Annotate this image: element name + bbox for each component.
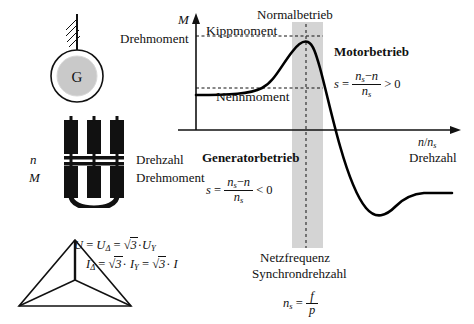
motor-m-symbol: M xyxy=(29,170,40,186)
motor-n-symbol: n xyxy=(30,152,37,168)
current-eq1: = xyxy=(98,257,105,271)
x-axis-label: Drehzahl xyxy=(409,150,457,166)
figure-canvas: G G n M Drehzahl Drehmome xyxy=(0,0,474,324)
y-axis-label: Drehmoment xyxy=(120,31,189,47)
voltage-u-delta-sub: Δ xyxy=(105,243,110,253)
voltage-u: U xyxy=(74,238,83,252)
sync-speed-fraction: f p xyxy=(306,290,318,317)
generator-symbol: G xyxy=(36,10,118,106)
slip-motor-numerator: ns−n xyxy=(352,70,381,85)
voltage-u-y: U xyxy=(142,238,151,252)
current-i-delta-sub: Δ xyxy=(90,262,95,272)
voltage-sqrt: √3 xyxy=(124,237,138,253)
y-axis-symbol: M xyxy=(178,12,189,28)
sync-speed-denominator: p xyxy=(306,304,318,317)
voltage-root-arg: 3 xyxy=(130,237,138,253)
current-eq2: = xyxy=(142,257,149,271)
slip-motor-relation: > 0 xyxy=(384,77,400,91)
slip-generator-formula: s = ns−n ns < 0 xyxy=(206,176,273,206)
motor-windings-symbol xyxy=(56,116,134,208)
generator-symbol-svg: G xyxy=(36,10,118,106)
slip-gen-relation: < 0 xyxy=(256,183,272,197)
motor-windings-svg xyxy=(56,116,134,208)
nennmoment-label: Nennmoment xyxy=(216,89,290,105)
motor-drehzahl-label: Drehzahl xyxy=(136,152,184,168)
slip-motor-denominator: ns xyxy=(352,85,381,99)
current-sqrt1: √3 xyxy=(108,256,122,272)
slip-motor-fraction: ns−n ns xyxy=(352,70,381,100)
x-axis-ns-sub: s xyxy=(433,141,436,150)
motorbetrieb-label: Motorbetrieb xyxy=(334,44,409,60)
x-axis-symbol: n/ns xyxy=(418,135,437,150)
current-dot2: · xyxy=(166,257,170,271)
synchrondrehzahl-label: Synchrondrehzahl xyxy=(252,266,347,282)
slip-gen-num-minus: − xyxy=(237,175,244,189)
current-sqrt2: √3 xyxy=(152,256,166,272)
voltage-eq1: = xyxy=(86,238,93,252)
current-i-y-sub: Y xyxy=(134,262,139,272)
y-axis-arrow xyxy=(192,13,200,24)
x-axis-arrow xyxy=(450,126,461,134)
kippmoment-label: Kippmoment xyxy=(206,23,277,39)
slip-gen-denominator: ns xyxy=(224,191,253,205)
slip-gen-fraction: ns−n ns xyxy=(224,176,253,206)
generator-letter-text: G xyxy=(72,69,83,85)
generatorbetrieb-label: Generatorbetrieb xyxy=(202,150,299,166)
slip-gen-s: s xyxy=(206,183,211,197)
sync-speed-numerator: f xyxy=(306,290,318,304)
normalbetrieb-label: Normalbetrieb xyxy=(257,7,333,23)
voltage-u-y-sub: Y xyxy=(151,243,156,253)
slip-motor-den-sub: s xyxy=(368,90,371,100)
current-root2-arg: 3 xyxy=(158,256,166,272)
slip-motor-num-n: n xyxy=(372,69,378,83)
voltage-formula: U = UΔ = √3·UY xyxy=(74,237,156,253)
current-i: I xyxy=(174,257,178,271)
slip-motor-eq: = xyxy=(342,77,349,91)
slip-gen-den-sub: s xyxy=(240,196,243,206)
slip-gen-num-n: n xyxy=(244,175,250,189)
slip-gen-numerator: ns−n xyxy=(224,176,253,191)
current-dot1: · xyxy=(123,257,127,271)
slip-motor-formula: s = ns−n ns > 0 xyxy=(334,70,401,100)
sync-speed-formula: ns = f p xyxy=(283,290,318,317)
netzfrequenz-label: Netzfrequenz xyxy=(260,250,330,266)
sync-speed-eq: = xyxy=(296,296,303,310)
current-formula: IΔ = √3· IY = √3· I xyxy=(86,256,178,272)
slip-gen-eq: = xyxy=(214,183,221,197)
motor-drehmoment-label: Drehmoment xyxy=(136,170,205,186)
normalbetrieb-band xyxy=(292,22,323,248)
voltage-eq2: = xyxy=(114,238,121,252)
current-root-arg: 3 xyxy=(114,256,122,272)
sync-speed-ns-sub: s xyxy=(289,301,292,311)
slip-motor-s: s xyxy=(334,77,339,91)
slip-motor-num-minus: − xyxy=(365,69,372,83)
